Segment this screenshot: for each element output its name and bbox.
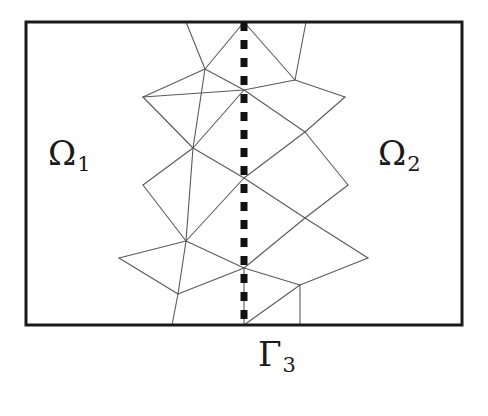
omega-1-symbol: Ω — [48, 133, 76, 173]
gamma-3-symbol: Γ — [258, 334, 282, 374]
omega-2-subscript: 2 — [406, 152, 420, 176]
label-omega-2: Ω2 — [378, 136, 421, 175]
omega-2-symbol: Ω — [378, 133, 406, 173]
gamma-3-subscript: 3 — [282, 353, 296, 377]
omega-1-subscript: 1 — [76, 152, 90, 176]
label-omega-1: Ω1 — [48, 136, 91, 175]
mesh-diagram-svg — [0, 0, 488, 416]
figure-canvas: Ω1 Ω2 Γ3 — [0, 0, 488, 416]
label-gamma-3: Γ3 — [258, 337, 296, 376]
